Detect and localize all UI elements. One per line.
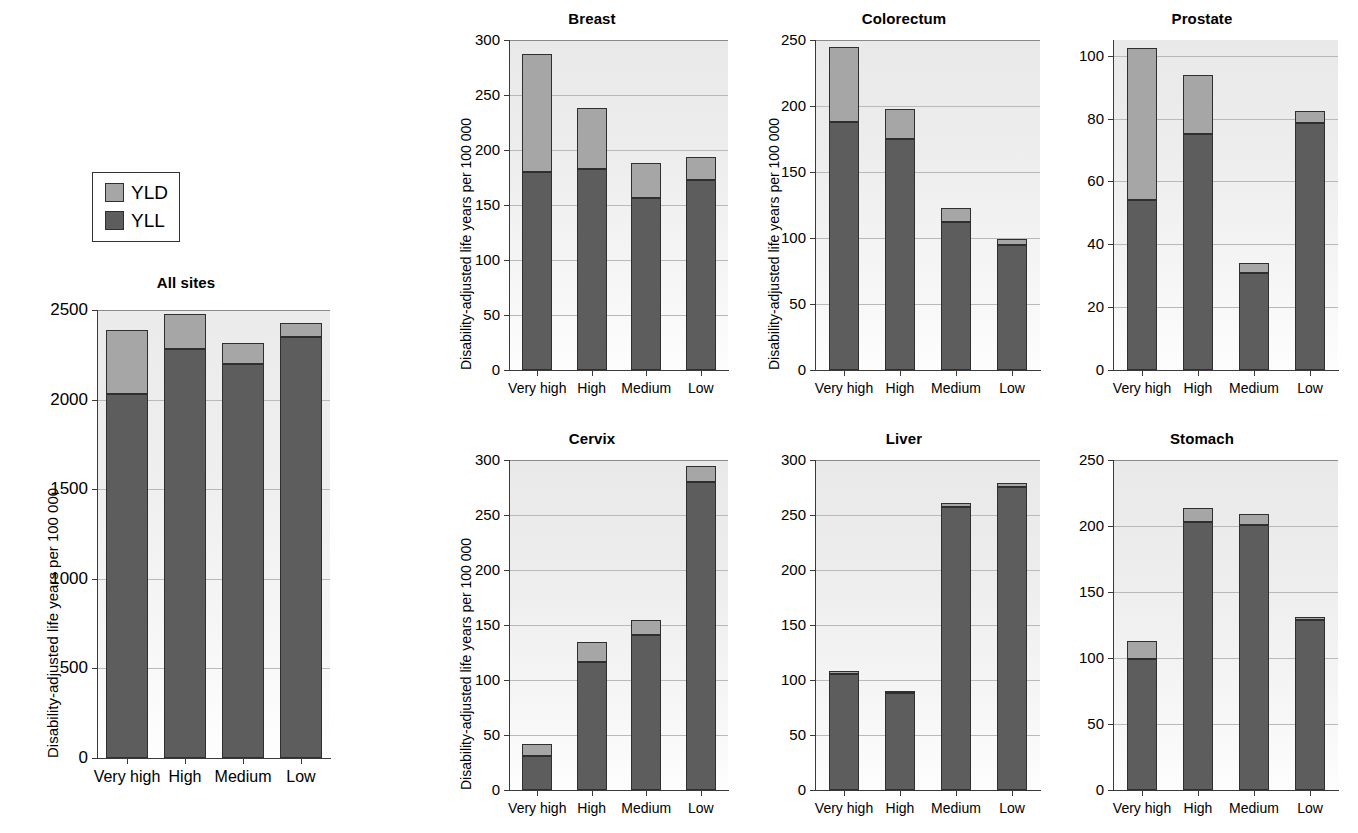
y-axis-title: Disability-adjusted life years per 100 0… (44, 488, 61, 758)
bar-segment-yll (997, 245, 1027, 370)
x-tick-label-low: Low (266, 768, 336, 786)
y-tick-label: 200 (448, 142, 500, 157)
bar-segment-yll (941, 222, 971, 370)
bar-segment-yll (522, 172, 552, 370)
bar-prostate-medium (1239, 263, 1269, 370)
bar-all-sites-medium (222, 343, 264, 758)
chart-panel-all-sites: All sites05001000150020002500Disability-… (36, 268, 336, 828)
y-tick-label: 50 (448, 727, 500, 742)
y-tick-label: 300 (754, 452, 806, 467)
x-tick-label-low: Low (978, 380, 1046, 396)
x-axis-line (1113, 370, 1339, 371)
chart-panel-cervix: Cervix050100150200250300Disability-adjus… (448, 424, 736, 830)
y-tick-label: 200 (754, 98, 806, 113)
y-axis-line (97, 310, 98, 758)
bar-segment-yld (1183, 508, 1213, 523)
y-axis-line (815, 460, 816, 790)
bar-segment-yld (941, 208, 971, 223)
y-tick-label: 40 (1052, 236, 1104, 251)
x-tick (537, 790, 538, 796)
bar-segment-yll (280, 337, 322, 758)
y-axis-line (1113, 460, 1114, 790)
x-tick (900, 790, 901, 796)
x-tick (1012, 790, 1013, 796)
y-tick-label: 50 (754, 727, 806, 742)
bar-cervix-high (577, 642, 607, 791)
bar-colorectum-low (997, 239, 1027, 370)
bar-segment-yll (1127, 200, 1157, 370)
bar-segment-yll (997, 487, 1027, 790)
y-tick-label: 100 (1052, 48, 1104, 63)
bar-segment-yll (164, 349, 206, 758)
y-axis-title: Disability-adjusted life years per 100 0… (458, 538, 474, 790)
bar-segment-yld (164, 314, 206, 350)
y-tick-label: 200 (1052, 518, 1104, 533)
y-tick-label: 150 (448, 197, 500, 212)
legend-swatch-yld (105, 183, 124, 202)
chart-panel-colorectum: Colorectum050100150200250Disability-adju… (760, 4, 1048, 410)
x-tick (243, 758, 244, 764)
x-tick (844, 790, 845, 796)
bar-prostate-very-high (1127, 48, 1157, 370)
bar-stomach-low (1295, 617, 1325, 790)
x-tick (1142, 370, 1143, 376)
x-tick-label-low: Low (668, 800, 735, 816)
y-tick-label: 250 (754, 32, 806, 47)
x-tick (646, 790, 647, 796)
x-axis-line (815, 370, 1041, 371)
y-tick-label: 50 (448, 307, 500, 322)
bar-segment-yll (1295, 620, 1325, 790)
x-axis-line (1113, 790, 1339, 791)
gridline (816, 40, 1040, 41)
x-tick (1198, 370, 1199, 376)
bar-segment-yld (522, 54, 552, 172)
x-tick (1310, 790, 1311, 796)
y-tick-label: 2500 (36, 301, 88, 318)
chart-panel-stomach: Stomach050100150200250Very highHighMediu… (1058, 424, 1346, 830)
x-tick (1012, 370, 1013, 376)
y-tick-label: 100 (448, 672, 500, 687)
bar-segment-yld (631, 620, 661, 635)
y-tick-label: 20 (1052, 299, 1104, 314)
bar-segment-yld (1295, 111, 1325, 124)
bar-breast-medium (631, 163, 661, 370)
y-tick-label: 80 (1052, 111, 1104, 126)
bar-segment-yll (941, 507, 971, 790)
gridline (816, 460, 1040, 461)
bar-segment-yll (1295, 123, 1325, 370)
y-axis-line (509, 460, 510, 790)
bar-segment-yld (829, 47, 859, 122)
bar-colorectum-medium (941, 208, 971, 370)
x-tick (701, 370, 702, 376)
bar-breast-very-high (522, 54, 552, 370)
y-tick-label: 250 (1052, 452, 1104, 467)
bar-segment-yld (885, 109, 915, 139)
gridline (98, 310, 330, 311)
legend-label-yld: YLD (131, 183, 168, 202)
y-tick-label: 250 (448, 507, 500, 522)
y-tick-label: 0 (448, 782, 500, 797)
x-tick (1198, 790, 1199, 796)
x-tick (127, 758, 128, 764)
legend-item-yld: YLD (105, 183, 168, 202)
y-tick-label: 200 (754, 562, 806, 577)
bar-segment-yll (686, 482, 716, 790)
y-tick-label: 250 (754, 507, 806, 522)
bar-segment-yll (1183, 134, 1213, 370)
bar-cervix-low (686, 466, 716, 791)
bar-breast-low (686, 157, 716, 370)
bar-cervix-medium (631, 620, 661, 791)
y-tick-label: 0 (754, 782, 806, 797)
x-tick-label-low: Low (978, 800, 1046, 816)
bar-segment-yll (885, 693, 915, 790)
x-tick (900, 370, 901, 376)
y-tick-label: 0 (1052, 362, 1104, 377)
bar-colorectum-high (885, 109, 915, 370)
y-tick-label: 300 (448, 32, 500, 47)
legend-label-yll: YLL (131, 211, 165, 230)
bar-segment-yll (222, 364, 264, 758)
chart-panel-liver: Liver050100150200250300Very highHighMedi… (760, 424, 1048, 830)
panel-title-stomach: Stomach (1058, 430, 1346, 447)
bar-colorectum-very-high (829, 47, 859, 370)
bar-liver-very-high (829, 671, 859, 790)
